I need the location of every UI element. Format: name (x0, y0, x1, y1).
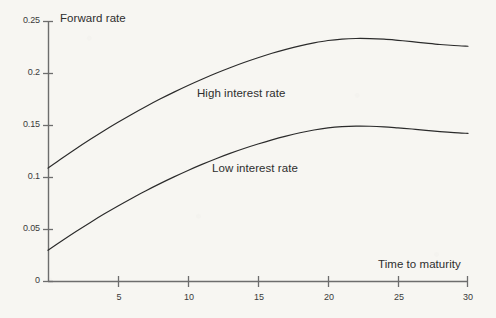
y-tick-label-0.2: 0.2 (8, 67, 40, 77)
x-tick-label-25: 25 (384, 292, 414, 302)
y-tick-label-0: 0 (8, 275, 40, 285)
x-tick-label-15: 15 (244, 292, 274, 302)
y-tick-label-0.05: 0.05 (8, 223, 40, 233)
chart-canvas: 0 0.05 0.1 0.15 0.2 0.25 5 10 15 20 25 3… (0, 0, 496, 318)
x-tick-label-30: 30 (453, 292, 483, 302)
x-axis-title: Time to maturity (378, 258, 461, 270)
x-tick-label-20: 20 (314, 292, 344, 302)
annotation-low-interest-rate: Low interest rate (212, 162, 298, 174)
y-tick-label-0.25: 0.25 (8, 15, 40, 25)
y-tick-label-0.1: 0.1 (8, 171, 40, 181)
annotation-high-interest-rate: High interest rate (197, 87, 285, 99)
y-axis-title: Forward rate (60, 12, 126, 24)
x-tick-label-10: 10 (174, 292, 204, 302)
series-line-low-interest-rate (48, 126, 468, 250)
series-line-high-interest-rate (48, 38, 468, 168)
y-tick-label-0.15: 0.15 (8, 119, 40, 129)
plot-area (0, 0, 496, 318)
x-tick-label-5: 5 (104, 292, 134, 302)
